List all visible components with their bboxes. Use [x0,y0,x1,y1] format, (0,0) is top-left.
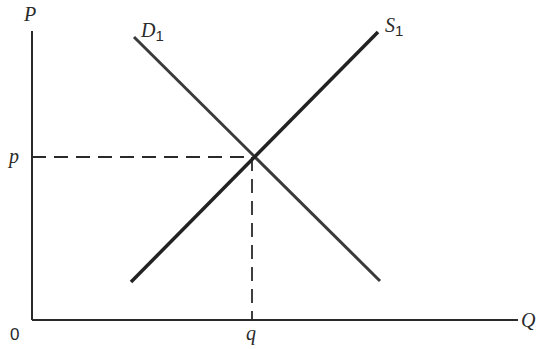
price-label: p [7,145,19,168]
y-axis-label: P [23,3,36,25]
demand-label: D1 [140,19,164,44]
x-axis-label: Q [521,309,536,331]
demand-curve [134,37,380,281]
supply-demand-chart: P Q 0 p q D1 S1 [0,0,542,349]
supply-label: S1 [385,14,403,39]
quantity-label: q [246,322,256,345]
origin-label: 0 [10,325,19,344]
